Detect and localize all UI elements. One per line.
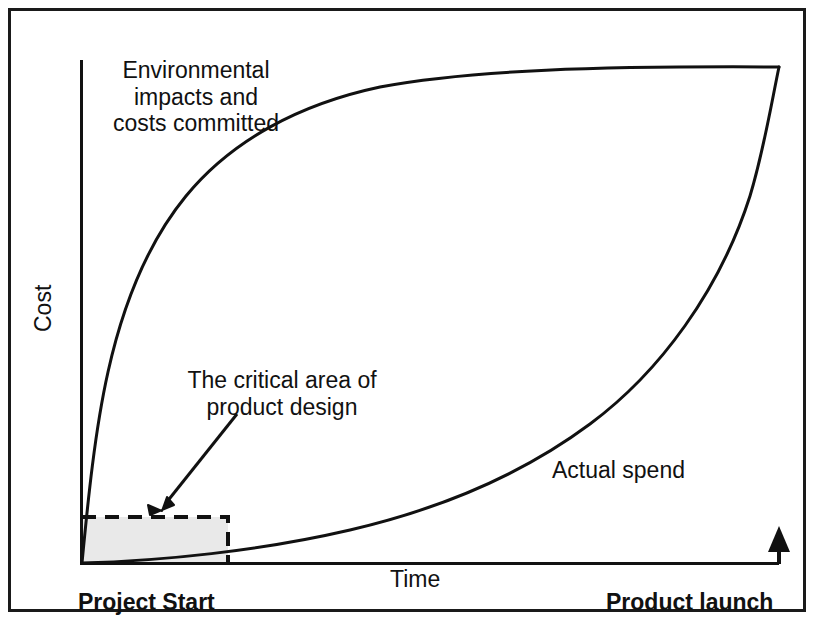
actual-spend-label: Actual spend: [552, 457, 685, 484]
x-axis-label: Time: [390, 566, 440, 593]
product-launch-arrow-icon: [768, 526, 790, 552]
committed-label-line-3: costs committed: [113, 110, 279, 136]
critical-label-line-2: product design: [207, 394, 358, 420]
chart-figure: Environmentalimpacts andcosts committed …: [0, 0, 816, 620]
x-axis-start-tick-label: Project Start: [78, 589, 215, 616]
critical-area-leader-line: [166, 414, 237, 503]
committed-curve: [82, 67, 779, 563]
y-axis-label: Cost: [30, 263, 57, 353]
critical-area-label: The critical area ofproduct design: [152, 367, 412, 420]
committed-label-line-1: Environmental: [122, 57, 269, 83]
committed-label-line-2: impacts and: [134, 84, 258, 110]
critical-area-shade: [82, 517, 228, 563]
critical-label-line-1: The critical area of: [187, 367, 376, 393]
actual-spend-curve: [82, 67, 779, 563]
committed-curve-label: Environmentalimpacts andcosts committed: [88, 57, 304, 137]
x-axis-end-tick-label: Product launch: [606, 589, 773, 616]
critical-area-arrowhead: [148, 497, 174, 515]
